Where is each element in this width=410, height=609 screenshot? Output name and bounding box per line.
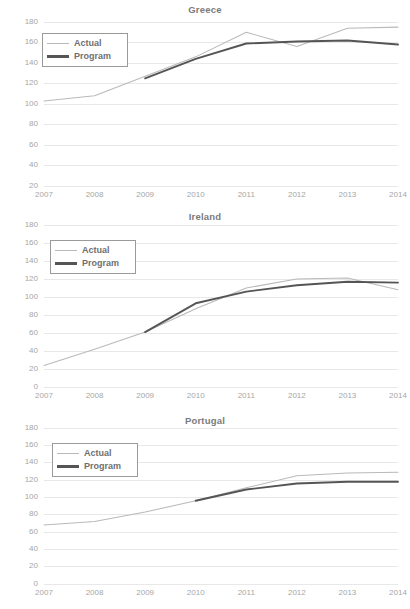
x-axis-tick-label: 2010 [176,190,216,199]
chart-panel-greece: Greece 204060801001201401601802007200820… [0,0,410,207]
x-axis-tick-label: 2014 [378,588,410,597]
legend-label: Actual [74,39,102,48]
y-axis-tick-label: 20 [4,181,38,190]
legend-label: Program [82,259,119,268]
y-axis-tick-label: 100 [4,99,38,108]
legend-item-actual: Actual [55,244,130,257]
x-axis-tick-label: 2011 [226,588,266,597]
chart-panel-portugal: Portugal 0204060801001201401601802007200… [0,411,410,609]
plot-area-portugal: 0204060801001201401601802007200820092010… [0,411,410,609]
y-axis-tick-label: 120 [4,78,38,87]
y-axis-tick-label: 120 [4,274,38,283]
series-line-program [145,282,398,332]
y-axis-tick-label: 60 [4,527,38,536]
x-axis-tick-label: 2009 [125,190,165,199]
y-axis-tick-label: 60 [4,140,38,149]
legend-swatch-program-icon [55,262,77,264]
y-axis-tick-label: 160 [4,440,38,449]
y-axis-tick-label: 140 [4,256,38,265]
y-axis-tick-label: 180 [4,17,38,26]
y-axis-tick-label: 0 [4,382,38,391]
y-axis-tick-label: 100 [4,292,38,301]
legend-swatch-program-icon [57,465,79,467]
legend-item-actual: Actual [57,447,132,460]
series-line-program [196,482,398,501]
x-axis-tick-label: 2007 [24,588,64,597]
x-axis-tick-label: 2013 [327,190,367,199]
legend-swatch-program-icon [47,55,69,57]
x-axis-tick-label: 2008 [75,588,115,597]
legend-item-program: Program [47,50,122,63]
chart-legend: ActualProgram [52,443,138,477]
x-axis-tick-label: 2008 [75,190,115,199]
chart-canvas [0,0,410,207]
legend-label: Program [74,52,111,61]
y-axis-tick-label: 80 [4,310,38,319]
x-axis-tick-label: 2013 [327,588,367,597]
y-axis-tick-label: 40 [4,160,38,169]
x-axis-tick-label: 2014 [378,190,410,199]
series-line-actual [44,278,398,365]
y-axis-tick-label: 60 [4,328,38,337]
y-axis-tick-label: 40 [4,544,38,553]
series-line-program [145,40,398,78]
x-axis-tick-label: 2012 [277,190,317,199]
chart-panel-ireland: Ireland 02040608010012014016018020072008… [0,207,410,411]
y-axis-tick-label: 120 [4,475,38,484]
y-axis-tick-label: 160 [4,37,38,46]
legend-swatch-actual-icon [57,453,79,454]
y-axis-tick-label: 180 [4,423,38,432]
x-axis-tick-label: 2009 [125,391,165,400]
y-axis-tick-label: 80 [4,509,38,518]
legend-item-program: Program [57,460,132,473]
x-axis-tick-label: 2010 [176,391,216,400]
x-axis-tick-label: 2011 [226,190,266,199]
legend-item-program: Program [55,257,130,270]
chart-legend: ActualProgram [42,33,128,67]
y-axis-tick-label: 20 [4,561,38,570]
x-axis-tick-label: 2012 [277,391,317,400]
chart-legend: ActualProgram [50,240,136,274]
legend-label: Program [84,462,121,471]
plot-area-greece: 2040608010012014016018020072008200920102… [0,0,410,207]
y-axis-tick-label: 140 [4,457,38,466]
y-axis-tick-label: 40 [4,346,38,355]
legend-swatch-actual-icon [47,43,69,44]
y-axis-tick-label: 20 [4,364,38,373]
legend-swatch-actual-icon [55,250,77,251]
plot-area-ireland: 0204060801001201401601802007200820092010… [0,207,410,411]
x-axis-tick-label: 2007 [24,190,64,199]
x-axis-tick-label: 2010 [176,588,216,597]
legend-item-actual: Actual [47,37,122,50]
x-axis-tick-label: 2007 [24,391,64,400]
y-axis-tick-label: 180 [4,220,38,229]
y-axis-tick-label: 140 [4,58,38,67]
y-axis-tick-label: 160 [4,238,38,247]
x-axis-tick-label: 2012 [277,588,317,597]
x-axis-tick-label: 2011 [226,391,266,400]
legend-label: Actual [84,449,112,458]
chart-canvas [0,411,410,609]
chart-canvas [0,207,410,411]
y-axis-tick-label: 0 [4,579,38,588]
y-axis-tick-label: 100 [4,492,38,501]
x-axis-tick-label: 2014 [378,391,410,400]
x-axis-tick-label: 2013 [327,391,367,400]
x-axis-tick-label: 2009 [125,588,165,597]
y-axis-tick-label: 80 [4,119,38,128]
x-axis-tick-label: 2008 [75,391,115,400]
legend-label: Actual [82,246,110,255]
